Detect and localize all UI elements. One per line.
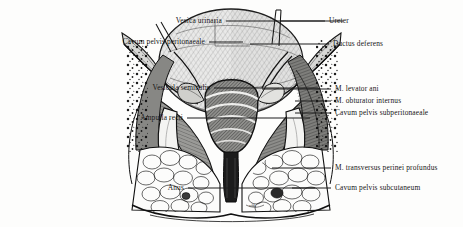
leader-ampulla-recti: [187, 118, 310, 119]
leader-m-transversus-perinei-profundus: [272, 168, 331, 169]
leader-m-obturator-internus: [295, 101, 331, 102]
leader-cavum-pelvis-subperitonaeale: [295, 113, 331, 114]
anatomical-plate: Vesica urinaria Cavum pelvis peritonaeal…: [0, 0, 463, 227]
label-vesicula-seminalis: Vesicula seminalis: [152, 84, 210, 92]
label-vesica-urinaria: Vesica urinaria: [176, 17, 222, 25]
label-cavum-pelvis-peritonaeale: Cavum pelvis peritonaeale: [122, 38, 205, 46]
leader-ureter: [280, 21, 325, 22]
artist-signature: wbk: [249, 203, 255, 208]
label-ureter: Ureter: [329, 17, 349, 25]
leader-m-levator-ani: [262, 89, 331, 90]
leader-cavum-pelvis-subcutaneum: [292, 188, 331, 189]
label-ampulla-recti: Ampulla recti: [140, 114, 183, 122]
label-cavum-pelvis-subcutaneum: Cavum pelvis subcutaneum: [335, 184, 420, 192]
label-m-obturator-internus: M. obturator internus: [335, 97, 401, 105]
label-anus: Anus: [168, 184, 184, 192]
label-m-levator-ani: M. levator ani: [335, 85, 379, 93]
label-cavum-pelvis-subperitonaeale: Cavum pelvis subperitonaeale: [335, 109, 428, 117]
leader-cavum-pelvis-peritonaeale: [209, 42, 243, 43]
label-ductus-deferens: Ductus deferens: [333, 40, 383, 48]
label-m-transversus-perinei-profundus: M. transversus perinei profundus: [335, 164, 438, 172]
leader-ductus-deferens: [250, 44, 329, 45]
